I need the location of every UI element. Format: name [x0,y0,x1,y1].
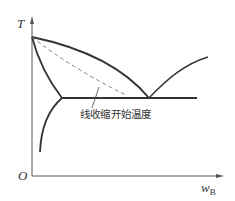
x-axis-label-main: w [201,180,210,195]
phase-diagram [0,0,235,201]
solidus-curve [32,37,62,98]
liquidus-curve-left [32,37,149,98]
y-axis-arrow-icon [30,16,34,24]
y-axis-label: T [17,16,24,32]
origin-label: O [18,168,27,184]
x-axis-arrow-icon [216,174,224,178]
liquidus-curve-right [149,57,208,98]
x-axis-label: wB [201,180,216,197]
shrinkage-start-temperature-label: 线收缩开始温度 [80,106,151,121]
solvus-curve [40,98,62,152]
x-axis-label-subscript: B [210,187,216,197]
